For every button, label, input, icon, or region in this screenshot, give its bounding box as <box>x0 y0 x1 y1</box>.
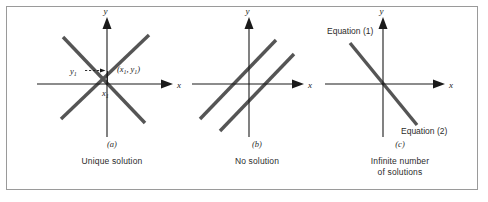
panel-c-graph: x y Equation (1) Equation (2) <box>325 7 475 137</box>
x-axis-label: x <box>307 80 312 90</box>
panel-b-caption-line1: No solution <box>192 156 322 167</box>
x-axis-label: x <box>448 80 453 90</box>
y-axis-arrowhead <box>103 17 112 29</box>
panel-b-caption: No solution <box>192 156 322 167</box>
y-axis-arrowhead <box>379 17 388 29</box>
figure-frame: x y y1 x1 (x1, y1) (a) Unique solution <box>6 6 478 190</box>
y-axis-label: y <box>245 7 250 16</box>
panel-infinite-solutions: x y Equation (1) Equation (2) (c) Infini… <box>325 7 475 191</box>
x1-axis-value-label: x1 <box>101 88 109 99</box>
y1-axis-value-label: y1 <box>69 66 77 77</box>
y-axis-arrowhead <box>245 17 254 29</box>
panel-a-caption-line1: Unique solution <box>37 156 187 167</box>
figure-root: x y y1 x1 (x1, y1) (a) Unique solution <box>0 0 488 202</box>
x-axis-arrowhead <box>161 80 173 89</box>
y1-leader-arrowhead <box>100 68 106 72</box>
equation-1-label: Equation (1) <box>327 26 373 36</box>
equation-2-label: Equation (2) <box>401 126 447 136</box>
panel-b-letter: (b) <box>192 139 322 149</box>
panel-unique-solution: x y y1 x1 (x1, y1) (a) Unique solution <box>37 7 187 191</box>
panel-c-caption-line2: of solutions <box>325 167 475 178</box>
parallel-line-lower <box>220 54 294 131</box>
x-axis-label: x <box>176 80 181 90</box>
intersection-point-label: (x1, y1) <box>117 64 140 75</box>
parallel-line-upper <box>200 40 276 119</box>
panel-a-letter: (a) <box>37 139 187 149</box>
panel-c-caption: Infinite number of solutions <box>325 156 475 178</box>
panel-a-caption: Unique solution <box>37 156 187 167</box>
x-axis-arrowhead <box>433 80 445 89</box>
panel-b-graph: x y <box>192 7 322 137</box>
panel-c-letter: (c) <box>325 139 475 149</box>
panel-c-caption-line1: Infinite number <box>325 156 475 167</box>
panel-a-graph: x y y1 x1 (x1, y1) <box>37 7 187 137</box>
panel-no-solution: x y (b) No solution <box>192 7 322 191</box>
x-axis-arrowhead <box>292 80 304 89</box>
y-axis-label: y <box>379 7 384 16</box>
y-axis-label: y <box>103 7 108 16</box>
